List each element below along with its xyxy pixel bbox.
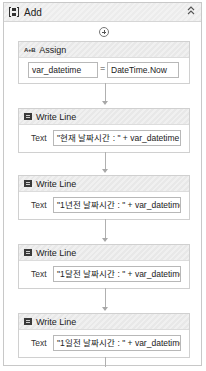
sequence-title: Add — [24, 7, 42, 18]
sequence-container[interactable]: Add A+B Assign var_datetime = DateTime.N… — [3, 2, 202, 366]
text-label: Text — [31, 133, 47, 143]
arrow-down-icon — [102, 238, 108, 242]
text-field[interactable]: "1년전 날짜시간 : " + var_datetime — [53, 197, 181, 213]
assign-to-field[interactable]: var_datetime — [28, 62, 98, 78]
write-line-title: Write Line — [36, 112, 76, 122]
write-line-title: Write Line — [36, 248, 76, 258]
write-line-header[interactable]: Write Line — [19, 314, 189, 330]
assign-value-field[interactable]: DateTime.Now — [107, 62, 179, 78]
write-line-icon — [24, 318, 32, 325]
text-field[interactable]: "1달전 날짜시간 : " + var_datetime — [53, 266, 181, 282]
text-field[interactable]: "현재 날짜시간 : " + var_datetime — [53, 130, 181, 146]
arrow-down-icon — [102, 307, 108, 311]
assign-header[interactable]: A+B Assign — [19, 42, 189, 58]
write-line-icon — [24, 113, 32, 120]
assign-activity[interactable]: A+B Assign var_datetime = DateTime.Now — [18, 41, 190, 84]
sequence-header[interactable]: Add — [4, 3, 201, 22]
write-line-title: Write Line — [36, 317, 76, 327]
connector-line — [105, 357, 106, 367]
text-label: Text — [31, 269, 47, 279]
connector-line — [105, 83, 106, 103]
equals-sign: = — [100, 63, 105, 73]
text-label: Text — [31, 338, 47, 348]
collapse-icon[interactable] — [186, 6, 196, 17]
write-line-header[interactable]: Write Line — [19, 109, 189, 125]
write-line-title: Write Line — [36, 179, 76, 189]
arrow-down-icon — [102, 101, 108, 105]
assign-title: Assign — [39, 45, 66, 55]
write-line-icon — [24, 180, 32, 187]
sequence-icon — [9, 7, 19, 18]
write-line-activity[interactable]: Write Line Text "1달전 날짜시간 : " + var_date… — [18, 244, 190, 289]
write-line-icon — [24, 249, 32, 256]
add-activity-icon[interactable] — [99, 27, 109, 37]
write-line-activity[interactable]: Write Line Text "1년전 날짜시간 : " + var_date… — [18, 175, 190, 220]
arrow-down-icon — [102, 169, 108, 173]
text-field[interactable]: "1일전 날짜시간 : " + var_datetime — [53, 335, 181, 351]
write-line-header[interactable]: Write Line — [19, 245, 189, 261]
write-line-activity[interactable]: Write Line Text "1일전 날짜시간 : " + var_date… — [18, 313, 190, 358]
text-label: Text — [31, 200, 47, 210]
write-line-header[interactable]: Write Line — [19, 176, 189, 192]
write-line-activity[interactable]: Write Line Text "현재 날짜시간 : " + var_datet… — [18, 108, 190, 153]
assign-icon: A+B — [24, 47, 35, 53]
